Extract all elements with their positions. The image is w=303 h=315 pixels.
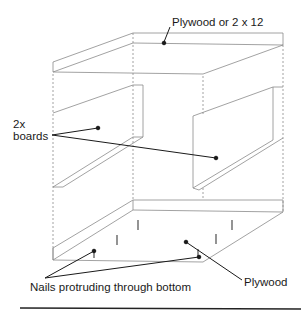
label-nails: Nails protruding through bottom (30, 281, 191, 294)
leader-lines (45, 27, 242, 280)
label-boards-line2: boards (13, 130, 48, 143)
corner-posts (53, 33, 283, 248)
label-top-plywood: Plywood or 2 x 12 (172, 16, 263, 29)
label-bottom-plywood: Plywood (244, 276, 287, 289)
right-board (193, 87, 283, 190)
top-plywood-panel (53, 33, 283, 74)
left-board (53, 85, 143, 187)
box-diagram (0, 0, 303, 315)
bottom-rule (20, 308, 301, 309)
bottom-plywood-panel (53, 200, 283, 262)
nails (94, 220, 232, 258)
